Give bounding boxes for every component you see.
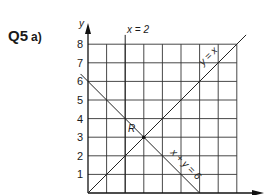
- svg-text:4: 4: [77, 113, 83, 125]
- region-label: R: [128, 123, 135, 134]
- y-axis-arrow-icon: [85, 23, 91, 34]
- intersection-point: [142, 135, 146, 139]
- y-tick-labels: 12345678: [77, 38, 83, 180]
- label-x-eq-2: x = 2: [126, 24, 149, 35]
- svg-text:2: 2: [77, 150, 83, 162]
- line-y-eq-x: [88, 35, 246, 193]
- svg-text:5: 5: [77, 94, 83, 106]
- svg-text:3: 3: [77, 131, 83, 143]
- graph: 12345678 y x = 2 y = x x + y = 6 R: [0, 0, 269, 195]
- y-axis-label: y: [78, 18, 85, 29]
- x-axis-arrow-icon: [252, 190, 264, 195]
- svg-text:6: 6: [77, 75, 83, 87]
- svg-text:1: 1: [77, 168, 83, 180]
- line-x-plus-y-eq-6: [81, 74, 200, 193]
- svg-text:8: 8: [77, 38, 83, 50]
- label-x-plus-y-eq-6: x + y = 6: [168, 146, 204, 182]
- svg-text:7: 7: [77, 57, 83, 69]
